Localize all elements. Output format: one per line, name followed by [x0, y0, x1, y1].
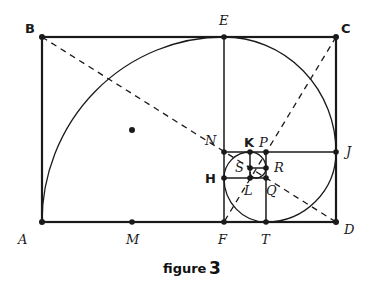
point-P-dot [263, 149, 269, 155]
diagonal-CF [224, 37, 336, 222]
label-L: L [243, 183, 253, 198]
center-dot [129, 127, 135, 133]
point-H-dot [221, 175, 227, 181]
label-F: F [217, 232, 228, 247]
golden-rectangle-diagram: B C E A M F T D J N K P R S H L Q figure… [0, 0, 378, 292]
label-H: H [205, 171, 216, 186]
label-T: T [261, 232, 271, 247]
caption-word: figure [163, 261, 207, 276]
label-N: N [204, 133, 217, 148]
label-E: E [218, 13, 229, 28]
point-F-dot [221, 219, 227, 225]
point-C-dot [333, 34, 339, 40]
point-B-dot [39, 34, 45, 40]
label-R: R [273, 160, 284, 175]
point-L-dot [247, 175, 253, 181]
point-K-dot [247, 149, 253, 155]
point-A-dot [39, 219, 45, 225]
label-M: M [125, 232, 140, 247]
label-D: D [343, 222, 355, 237]
point-Q-dot [263, 175, 269, 181]
label-Q: Q [266, 183, 277, 198]
point-N-dot [221, 149, 227, 155]
label-J: J [343, 144, 352, 159]
point-M-dot [129, 219, 135, 225]
point-D-dot [333, 219, 339, 225]
point-E-dot [221, 34, 227, 40]
label-P: P [258, 135, 268, 150]
label-C: C [341, 21, 351, 36]
point-R-dot [263, 165, 269, 171]
diagonal-BD [42, 37, 336, 222]
label-S: S [235, 160, 244, 175]
point-J-dot [333, 149, 339, 155]
label-B: B [25, 21, 35, 36]
point-T-dot [263, 219, 269, 225]
caption-number: 3 [209, 258, 221, 278]
label-K: K [244, 135, 255, 150]
label-A: A [17, 232, 27, 247]
point-S-dot [247, 165, 253, 171]
